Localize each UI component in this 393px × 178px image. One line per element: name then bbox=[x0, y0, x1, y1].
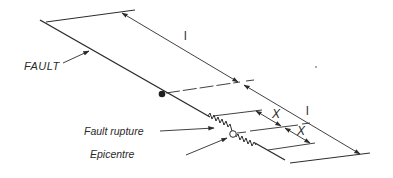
fault-diagram: FAULT Fault rupture Epicentre l l X X bbox=[0, 0, 393, 178]
hypocentre-dot bbox=[159, 91, 166, 98]
fault-rupture-zigzag-lower bbox=[236, 134, 256, 146]
epicentre-leader-arrow bbox=[186, 138, 227, 155]
length-label-top: l bbox=[184, 29, 187, 43]
fault-rupture-label: Fault rupture bbox=[84, 125, 144, 137]
fault-line bbox=[40, 20, 285, 160]
length-label-bottom: l bbox=[306, 104, 309, 118]
fault-leader-arrow bbox=[63, 51, 89, 63]
x-lower-boundary-line bbox=[268, 143, 315, 150]
fault-label: FAULT bbox=[24, 60, 60, 72]
dimension-l-lower bbox=[244, 85, 360, 154]
bottom-boundary-line bbox=[290, 153, 370, 163]
x-label-upper: X bbox=[271, 107, 281, 121]
fault-rupture-leader-arrow bbox=[160, 128, 214, 131]
epicentre-circle bbox=[230, 131, 237, 138]
epicentre-label: Epicentre bbox=[90, 148, 135, 160]
top-boundary-line bbox=[46, 10, 135, 22]
x-upper-boundary-line bbox=[213, 110, 262, 116]
x-label-lower: X bbox=[296, 124, 306, 138]
dimension-l-upper bbox=[122, 13, 238, 82]
mid-reference-line bbox=[166, 80, 254, 93]
